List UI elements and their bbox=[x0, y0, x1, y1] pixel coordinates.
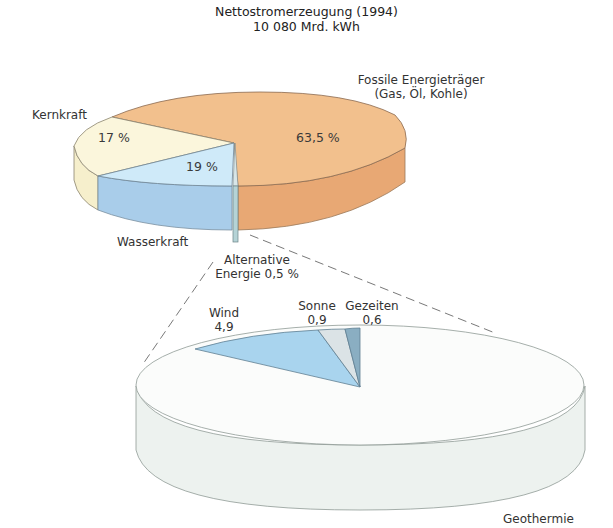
alternative-label: Alternative Energie 0,5 % bbox=[212, 253, 302, 281]
wind-label: Wind 4,9 bbox=[204, 306, 244, 334]
sonne-label: Sonne 0,9 bbox=[292, 299, 342, 327]
sonne-label-value: 0,9 bbox=[292, 313, 342, 327]
wind-label-value: 4,9 bbox=[204, 320, 244, 334]
fossil-label-line1: Fossile Energieträger bbox=[316, 73, 526, 87]
geothermie-label: Geothermie bbox=[503, 512, 574, 526]
gezeiten-label-value: 0,6 bbox=[340, 313, 404, 327]
alternative-label-line1: Alternative bbox=[212, 253, 302, 267]
chart-title: Nettostromerzeugung (1994) bbox=[0, 4, 613, 19]
fossil-value: 63,5 % bbox=[296, 131, 340, 145]
chart-subtitle: 10 080 Mrd. kWh bbox=[0, 19, 613, 34]
alternative-label-line2: Energie 0,5 % bbox=[212, 267, 302, 281]
fossil-label: Fossile Energieträger (Gas, Öl, Kohle) bbox=[316, 73, 526, 101]
sonne-label-name: Sonne bbox=[292, 299, 342, 313]
kernkraft-value: 17 % bbox=[98, 131, 130, 145]
kernkraft-label: Kernkraft bbox=[32, 108, 87, 122]
wasserkraft-label: Wasserkraft bbox=[117, 235, 188, 249]
alternative-slice-side bbox=[233, 186, 238, 242]
gezeiten-label-name: Gezeiten bbox=[340, 299, 404, 313]
wasserkraft-value: 19 % bbox=[186, 160, 218, 174]
fossil-label-line2: (Gas, Öl, Kohle) bbox=[316, 87, 526, 101]
gezeiten-label: Gezeiten 0,6 bbox=[340, 299, 404, 327]
wind-label-name: Wind bbox=[204, 306, 244, 320]
